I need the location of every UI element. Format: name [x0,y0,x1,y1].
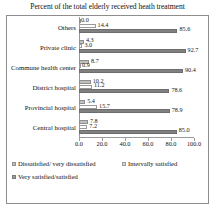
bar [79,49,186,53]
y-axis-category-label: District hospital [32,84,76,91]
bar-value-label: 0.9 [82,62,90,68]
bar [79,44,82,48]
bar-value-label: 15.7 [99,103,110,109]
bar-group: 4.33.092.7 [79,40,194,53]
x-axis-tick-label: 100.0 [187,140,201,147]
bar-value-label: 92.7 [188,47,199,53]
bar-value-label: 78.6 [171,87,182,93]
bar-value-label: 14.4 [98,22,109,28]
bar [79,85,92,89]
bar [79,29,177,33]
legend-swatch-icon [12,175,16,179]
legend-item-very-satisfied: Very satisfied/satisfied [12,173,78,180]
bar [79,120,88,124]
bar-value-label: 8.7 [91,58,99,64]
bar [79,40,84,44]
bar-value-label: 7.2 [89,123,97,129]
bar-value-label: 0.0 [81,17,89,23]
chart-title: Percent of the total elderly received he… [0,2,215,11]
bar [79,109,170,113]
x-axis-tick-label: 80.0 [165,140,176,147]
bar-group: 10.211.278.6 [79,80,194,93]
bar [79,105,97,109]
x-axis-tick-label: 20.0 [96,140,107,147]
legend-row-1: Dissatisfied/ very dissatisfied Interval… [12,160,210,173]
legend-item-dissatisfied: Dissatisfied/ very dissatisfied [12,160,96,167]
bar-value-label: 3.0 [84,42,92,48]
bar [79,69,183,73]
legend-item-intervally-satisfied: Intervally satisfied [122,160,177,167]
x-axis-tick-label: 60.0 [142,140,153,147]
bar [79,125,87,129]
bar [79,100,85,104]
y-axis-category-label: Central hospital [33,124,76,131]
bar [79,64,81,68]
x-axis-tick-label: 0.0 [75,140,83,147]
y-axis-category-label: Others [58,24,76,31]
bar-value-label: 5.4 [87,98,95,104]
bar-value-label: 11.2 [94,82,105,88]
legend-label: Dissatisfied/ very dissatisfied [18,160,96,167]
x-axis-tick-labels: 0.020.040.060.080.0100.0 [79,139,194,149]
y-axis-category-label: Commune health center [11,64,76,71]
bar [79,24,96,28]
legend-row-2: Very satisfied/satisfied [12,173,210,186]
y-axis-category-label: Private clinic [40,44,76,51]
bar-group: 7.87.285.0 [79,120,194,133]
legend-label: Intervally satisfied [128,160,177,167]
bar-value-label: 85.0 [179,127,190,133]
bar-value-label: 90.4 [185,67,196,73]
chart-legend: Dissatisfied/ very dissatisfied Interval… [12,160,210,186]
plot-area: 0.014.485.64.33.092.78.70.990.410.211.27… [79,17,194,138]
y-axis-category-labels: OthersPrivate clinicCommune health cente… [6,17,76,138]
bar-group: 8.70.990.4 [79,60,194,73]
legend-swatch-icon [12,162,16,166]
bar [79,130,177,134]
bar-value-label: 85.6 [179,26,190,32]
bar [79,89,169,93]
chart-container: Percent of the total elderly received he… [0,0,215,208]
x-axis-tick-label: 40.0 [119,140,130,147]
legend-label: Very satisfied/satisfied [18,173,78,180]
legend-swatch-icon [122,162,126,166]
bar-group: 0.014.485.6 [79,19,194,32]
y-axis-category-label: Provincial hospital [25,104,76,111]
bar-group: 5.415.778.9 [79,100,194,113]
bar-value-label: 78.9 [172,107,183,113]
bar [79,80,91,84]
